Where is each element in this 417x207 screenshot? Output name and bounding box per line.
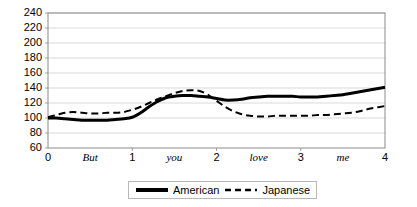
legend-label: Japanese <box>262 184 310 196</box>
x-axis-tick-label: 4 <box>375 152 395 163</box>
legend: AmericanJapanese <box>128 181 317 199</box>
legend-label: American <box>173 184 219 196</box>
legend-item-american[interactable]: American <box>135 184 219 196</box>
legend-item-japanese[interactable]: Japanese <box>224 184 310 196</box>
y-axis-tick-label: 80 <box>14 127 42 138</box>
y-axis-tick-label: 200 <box>14 37 42 48</box>
legend-swatch-dashed-icon <box>224 185 258 195</box>
legend-swatch-solid-icon <box>135 185 169 195</box>
y-axis-tick-label: 120 <box>14 97 42 108</box>
x-axis-tick-label: 3 <box>291 152 311 163</box>
plot-area <box>0 0 417 207</box>
x-axis-word-label: love <box>237 152 281 163</box>
y-axis-tick-label: 240 <box>14 7 42 18</box>
y-axis-tick-label: 180 <box>14 52 42 63</box>
x-axis-word-label: me <box>321 152 365 163</box>
x-axis-word-label: you <box>152 152 196 163</box>
y-axis-tick-label: 140 <box>14 82 42 93</box>
line-chart: 240220200180160140120100806001234Butyoul… <box>0 0 417 207</box>
x-axis-word-label: But <box>68 152 112 163</box>
x-axis-tick-label: 1 <box>122 152 142 163</box>
y-axis-tick-label: 220 <box>14 22 42 33</box>
x-axis-tick-label: 0 <box>38 152 58 163</box>
plot-background <box>48 13 385 148</box>
y-axis-tick-label: 160 <box>14 67 42 78</box>
y-axis-tick-label: 100 <box>14 112 42 123</box>
x-axis-tick-label: 2 <box>207 152 227 163</box>
